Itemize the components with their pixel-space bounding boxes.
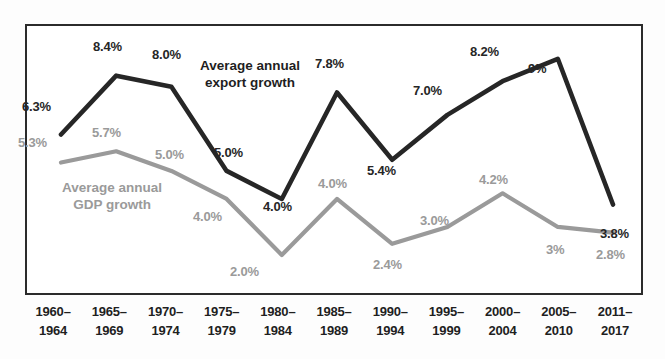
x-tick-2011–2017: 2011–2017: [587, 303, 643, 351]
data-label-gdp-growth-1970–1974: 5.0%: [155, 148, 184, 161]
x-tick-start-year: 1960–: [25, 303, 81, 322]
data-label-export-growth-2005–2010: 9%: [528, 62, 546, 75]
x-tick-start-year: 1970–: [137, 303, 193, 322]
x-tick-start-year: 2000–: [475, 303, 531, 322]
data-label-export-growth-1975–1979: 5.0%: [214, 146, 243, 159]
series-annotation-export-line2: export growth: [200, 75, 300, 92]
x-tick-end-year: 1999: [418, 322, 474, 341]
x-tick-end-year: 2017: [587, 322, 643, 341]
x-tick-1995–1999: 1995–1999: [418, 303, 474, 351]
x-tick-end-year: 1974: [137, 322, 193, 341]
x-tick-2005–2010: 2005–2010: [531, 303, 587, 351]
x-tick-end-year: 1979: [194, 322, 250, 341]
data-label-gdp-growth-2011–2017: 2.8%: [596, 248, 625, 261]
data-label-export-growth-1985–1989: 7.8%: [315, 57, 344, 70]
x-tick-end-year: 1994: [362, 322, 418, 341]
data-label-gdp-growth-2000–2004: 4.2%: [479, 173, 508, 186]
data-label-export-growth-1980–1984: 4.0%: [263, 200, 292, 213]
x-tick-end-year: 2010: [531, 322, 587, 341]
x-tick-start-year: 2011–: [587, 303, 643, 322]
x-tick-1970–1974: 1970–1974: [137, 303, 193, 351]
data-label-export-growth-2000–2004: 8.2%: [470, 45, 499, 58]
data-label-gdp-growth-1975–1979: 4.0%: [193, 210, 222, 223]
data-label-export-growth-1990–1994: 5.4%: [367, 164, 396, 177]
series-annotation-gdp-line2: GDP growth: [62, 197, 162, 214]
series-annotation-export-growth: Average annual export growth: [200, 58, 300, 92]
data-label-export-growth-1960–1964: 6.3%: [22, 100, 51, 113]
chart-container: Average annual export growth Average ann…: [0, 0, 665, 359]
x-tick-end-year: 1989: [306, 322, 362, 341]
x-tick-start-year: 1980–: [250, 303, 306, 322]
x-tick-1980–1984: 1980–1984: [250, 303, 306, 351]
x-tick-start-year: 1985–: [306, 303, 362, 322]
data-label-gdp-growth-1995–1999: 3.0%: [420, 214, 449, 227]
x-tick-end-year: 1984: [250, 322, 306, 341]
data-label-gdp-growth-1960–1964: 5.3%: [18, 136, 47, 149]
x-tick-end-year: 1964: [25, 322, 81, 341]
data-label-export-growth-1965–1969: 8.4%: [93, 40, 122, 53]
x-tick-2000–2004: 2000–2004: [475, 303, 531, 351]
x-tick-start-year: 1965–: [81, 303, 137, 322]
x-tick-start-year: 1990–: [362, 303, 418, 322]
data-label-export-growth-1970–1974: 8.0%: [152, 48, 181, 61]
x-tick-1985–1989: 1985–1989: [306, 303, 362, 351]
data-label-export-growth-2011–2017: 3.8%: [600, 227, 629, 240]
data-label-gdp-growth-1990–1994: 2.4%: [373, 258, 402, 271]
series-annotation-export-line1: Average annual: [200, 58, 300, 75]
x-tick-start-year: 1975–: [194, 303, 250, 322]
data-label-gdp-growth-1980–1984: 2.0%: [230, 265, 259, 278]
data-label-gdp-growth-1985–1989: 4.0%: [318, 177, 347, 190]
series-annotation-gdp-growth: Average annual GDP growth: [62, 180, 162, 214]
x-tick-end-year: 2004: [475, 322, 531, 341]
x-tick-1990–1994: 1990–1994: [362, 303, 418, 351]
x-tick-1960–1964: 1960–1964: [25, 303, 81, 351]
x-tick-start-year: 1995–: [418, 303, 474, 322]
series-annotation-gdp-line1: Average annual: [62, 180, 162, 197]
x-axis-tick-labels: 1960–19641965–19691970–19741975–19791980…: [25, 303, 643, 351]
x-tick-1965–1969: 1965–1969: [81, 303, 137, 351]
x-tick-start-year: 2005–: [531, 303, 587, 322]
data-label-export-growth-1995–1999: 7.0%: [413, 84, 442, 97]
data-label-gdp-growth-1965–1969: 5.7%: [92, 126, 121, 139]
x-tick-end-year: 1969: [81, 322, 137, 341]
x-tick-1975–1979: 1975–1979: [194, 303, 250, 351]
data-label-gdp-growth-2005–2010: 3%: [546, 243, 564, 256]
